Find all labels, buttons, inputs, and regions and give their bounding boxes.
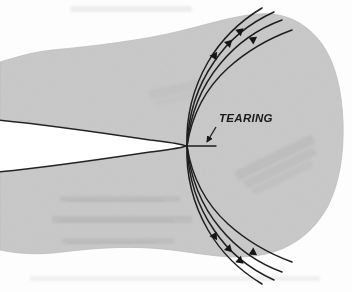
ghost-mark — [62, 238, 174, 244]
tearing-label: TEARING — [219, 112, 273, 124]
ghost-mark — [52, 216, 192, 223]
tearing-diagram: TEARING — [0, 0, 352, 292]
ghost-mark — [60, 196, 180, 202]
figure-container: TEARING — [0, 0, 352, 292]
